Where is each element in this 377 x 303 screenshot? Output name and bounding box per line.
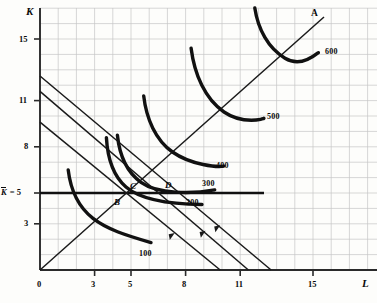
axis-ticks	[34, 39, 313, 276]
isocost-lines	[40, 76, 271, 270]
point-label-a: A	[311, 9, 318, 19]
isocost-line-1	[40, 122, 220, 270]
isoquant-label-200: 200	[186, 199, 199, 207]
kbar-value: = 5	[10, 187, 21, 197]
x-tick-label-5: 5	[128, 280, 132, 289]
kbar-axis-label: K= 5	[1, 188, 21, 197]
x-tick-label-0: 0	[37, 280, 41, 289]
x-tick-label-3: 3	[91, 280, 95, 289]
isoquant-label-100: 100	[139, 250, 152, 258]
point-label-b: B	[114, 198, 120, 207]
x-axis-label: L	[362, 278, 369, 289]
isoquant-label-400: 400	[216, 162, 229, 170]
isoquant-label-600: 600	[325, 48, 338, 56]
isocost-line-3	[40, 76, 271, 270]
point-label-d: D	[165, 181, 172, 190]
isoquant-label-300: 300	[202, 180, 215, 188]
isocost-arrowheads	[167, 223, 222, 240]
isoquant-curve-600	[255, 8, 319, 62]
x-tick-label-8: 8	[182, 280, 186, 289]
y-tick-label-3: 3	[24, 219, 28, 228]
kbar-symbol: K	[1, 188, 7, 197]
isoquant-curve-500	[191, 48, 264, 120]
point-label-c: C	[130, 182, 136, 191]
y-tick-label-15: 15	[19, 35, 28, 44]
x-tick-label-11: 11	[235, 280, 243, 289]
x-tick-label-15: 15	[308, 280, 317, 289]
y-tick-label-11: 11	[19, 96, 27, 105]
y-tick-label-8: 8	[24, 142, 28, 151]
chart-canvas	[0, 0, 377, 303]
isoquant-figure: K L 15 11 8 3 K= 5 0 3 5 8 11 15 100 200…	[0, 0, 377, 303]
isoquant-curves	[68, 8, 318, 243]
isoquant-label-500: 500	[267, 113, 280, 121]
y-axis-label: K	[26, 6, 33, 17]
